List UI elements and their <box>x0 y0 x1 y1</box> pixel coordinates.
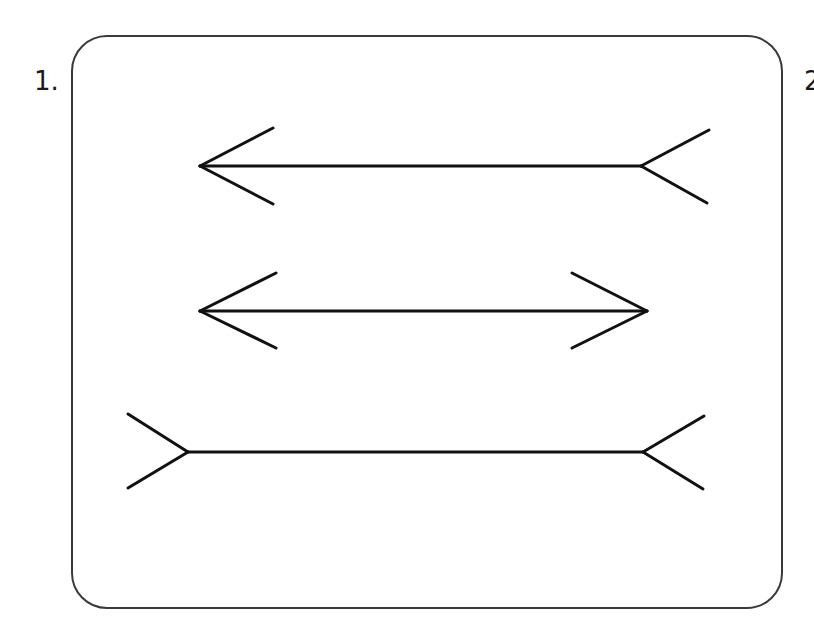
line-fin <box>641 130 709 166</box>
line-fin <box>200 128 273 166</box>
arrow-line-1 <box>200 128 709 204</box>
line-fin <box>572 311 647 348</box>
line-fin <box>128 414 188 452</box>
arrow-line-2 <box>200 273 647 348</box>
line-fin <box>572 273 647 311</box>
line-fin <box>128 452 188 488</box>
line-fin <box>641 166 707 203</box>
line-fin <box>643 452 703 489</box>
line-fin <box>200 311 276 348</box>
line-fin <box>643 416 704 452</box>
line-fin <box>200 166 273 204</box>
muller-lyer-illusion-diagram <box>0 0 814 625</box>
line-fin <box>200 273 276 311</box>
arrow-line-3 <box>128 414 704 489</box>
